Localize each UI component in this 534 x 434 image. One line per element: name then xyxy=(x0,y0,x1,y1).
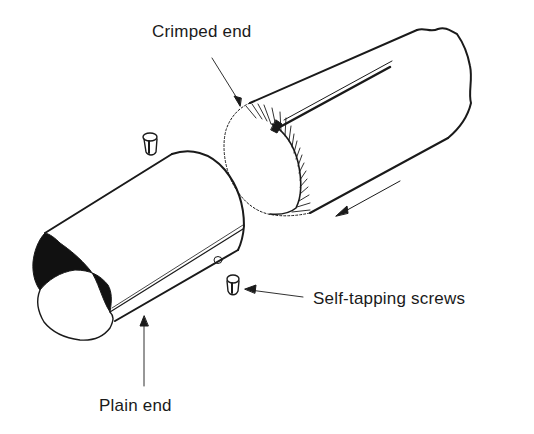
diagram-canvas xyxy=(0,0,534,434)
plain-pipe xyxy=(33,151,244,340)
crimped-end-label: Crimped end xyxy=(152,22,252,42)
plain-end-pointer xyxy=(140,316,148,386)
crimped-pipe xyxy=(224,28,471,216)
crimped-end-pointer xyxy=(212,58,241,106)
assembly-direction-arrow xyxy=(336,181,400,216)
plain-end-label: Plain end xyxy=(99,396,172,416)
self-tapping-screws-label: Self-tapping screws xyxy=(313,289,465,309)
screws-pointer xyxy=(245,285,303,297)
screw-top xyxy=(143,133,157,155)
screw-side xyxy=(227,275,239,295)
